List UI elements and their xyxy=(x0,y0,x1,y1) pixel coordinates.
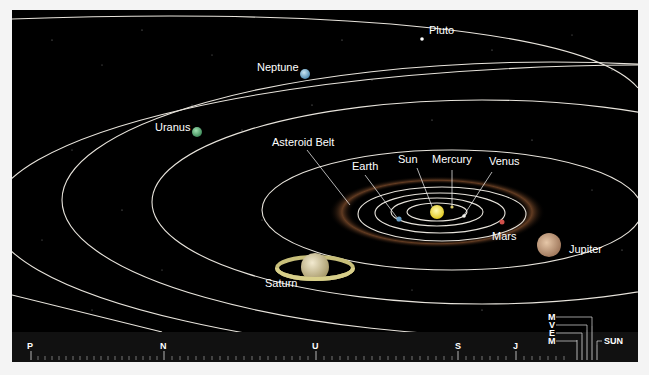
mars xyxy=(500,220,505,225)
sun xyxy=(430,205,444,219)
uranus xyxy=(192,127,202,137)
venus xyxy=(462,214,466,218)
label-venus: Venus xyxy=(489,155,520,167)
label-jupiter: Jupiter xyxy=(569,243,602,255)
earth xyxy=(396,216,401,221)
label-mars: Mars xyxy=(492,230,517,242)
distance-scale-bar: P N U S J M V E M SUN xyxy=(12,312,638,362)
scale-marker-jupiter: J xyxy=(513,341,518,351)
orbits xyxy=(12,16,638,362)
label-sun: Sun xyxy=(398,153,418,165)
label-mercury: Mercury xyxy=(432,153,472,165)
scale-marker-sun: SUN xyxy=(604,336,623,346)
label-earth: Earth xyxy=(352,160,378,172)
scale-marker-saturn: S xyxy=(455,341,461,351)
label-pluto: Pluto xyxy=(429,24,454,36)
orbit-diagram-svg: Pluto Neptune Uranus Asteroid Belt Earth… xyxy=(12,10,638,362)
label-saturn: Saturn xyxy=(265,277,297,289)
jupiter xyxy=(537,233,561,257)
scale-marker-mercury: M xyxy=(548,336,556,346)
scale-marker-neptune: N xyxy=(160,341,167,351)
pluto xyxy=(420,37,424,41)
mercury xyxy=(450,205,453,208)
scale-marker-uranus: U xyxy=(312,341,319,351)
orbit-pluto-lower xyxy=(12,295,162,332)
label-asteroid-belt: Asteroid Belt xyxy=(272,136,334,148)
star-field xyxy=(42,29,623,310)
solar-system-diagram: Pluto Neptune Uranus Asteroid Belt Earth… xyxy=(12,10,638,362)
label-neptune: Neptune xyxy=(257,61,299,73)
label-uranus: Uranus xyxy=(155,121,191,133)
neptune xyxy=(300,69,310,79)
scale-marker-pluto: P xyxy=(27,341,33,351)
